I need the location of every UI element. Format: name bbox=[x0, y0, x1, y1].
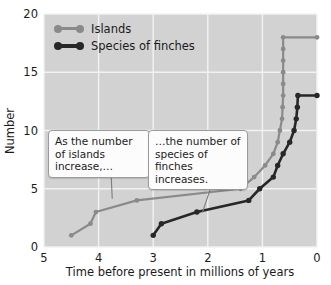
data-point bbox=[159, 221, 164, 226]
data-point bbox=[281, 82, 286, 87]
data-point bbox=[291, 128, 296, 133]
data-point bbox=[315, 35, 320, 40]
data-point bbox=[88, 221, 93, 226]
data-point bbox=[294, 116, 299, 121]
data-point bbox=[263, 163, 268, 168]
legend-dot-right-icon bbox=[76, 25, 84, 33]
legend-label-finches: Species of finches bbox=[91, 39, 195, 53]
data-point bbox=[246, 198, 251, 203]
legend-dot-right-icon bbox=[76, 42, 84, 50]
data-point bbox=[257, 186, 262, 191]
data-point bbox=[281, 35, 286, 40]
y-axis-tick-label: 15 bbox=[12, 65, 38, 79]
data-point bbox=[295, 93, 300, 98]
data-point bbox=[93, 210, 98, 215]
data-point bbox=[69, 233, 74, 238]
y-axis-tick-label: 10 bbox=[12, 124, 38, 138]
y-axis-tick-label: 5 bbox=[12, 182, 38, 196]
data-point bbox=[194, 209, 199, 214]
data-point bbox=[151, 233, 156, 238]
x-axis-tick-label: 3 bbox=[140, 251, 166, 265]
data-point bbox=[295, 105, 300, 110]
data-point bbox=[280, 151, 285, 156]
legend-item-finches: Species of finches bbox=[54, 37, 195, 54]
data-point bbox=[280, 116, 285, 121]
legend-marker-finches bbox=[54, 40, 84, 51]
data-point bbox=[271, 174, 276, 179]
x-axis-tick-label: 5 bbox=[31, 251, 57, 265]
data-point bbox=[275, 140, 280, 145]
data-point bbox=[281, 70, 286, 75]
data-point bbox=[252, 175, 257, 180]
x-axis-tick-label: 0 bbox=[304, 251, 330, 265]
annotation-callout-islands: As the number of islands increase,… bbox=[48, 130, 150, 178]
chart-figure: Number 05101520543210 Time before presen… bbox=[0, 0, 331, 285]
data-point bbox=[271, 151, 276, 156]
data-point bbox=[281, 47, 286, 52]
data-point bbox=[280, 105, 285, 110]
x-axis-tick-label: 1 bbox=[249, 251, 275, 265]
data-point bbox=[134, 198, 139, 203]
y-axis-tick-label: 20 bbox=[12, 7, 38, 21]
annotation-callout-finches: …the number of species of finches increa… bbox=[148, 130, 248, 190]
x-axis-tick-label: 2 bbox=[195, 251, 221, 265]
data-point bbox=[277, 128, 282, 133]
legend-marker-islands bbox=[54, 23, 84, 34]
legend-label-islands: Islands bbox=[91, 22, 131, 36]
data-point bbox=[314, 93, 319, 98]
x-axis-title: Time before present in millions of years bbox=[66, 265, 294, 279]
data-point bbox=[281, 93, 286, 98]
chart-legend: Islands Species of finches bbox=[54, 20, 195, 54]
legend-item-islands: Islands bbox=[54, 20, 195, 37]
data-point bbox=[275, 163, 280, 168]
x-axis-tick-label: 4 bbox=[86, 251, 112, 265]
data-point bbox=[281, 58, 286, 63]
data-point bbox=[287, 139, 292, 144]
